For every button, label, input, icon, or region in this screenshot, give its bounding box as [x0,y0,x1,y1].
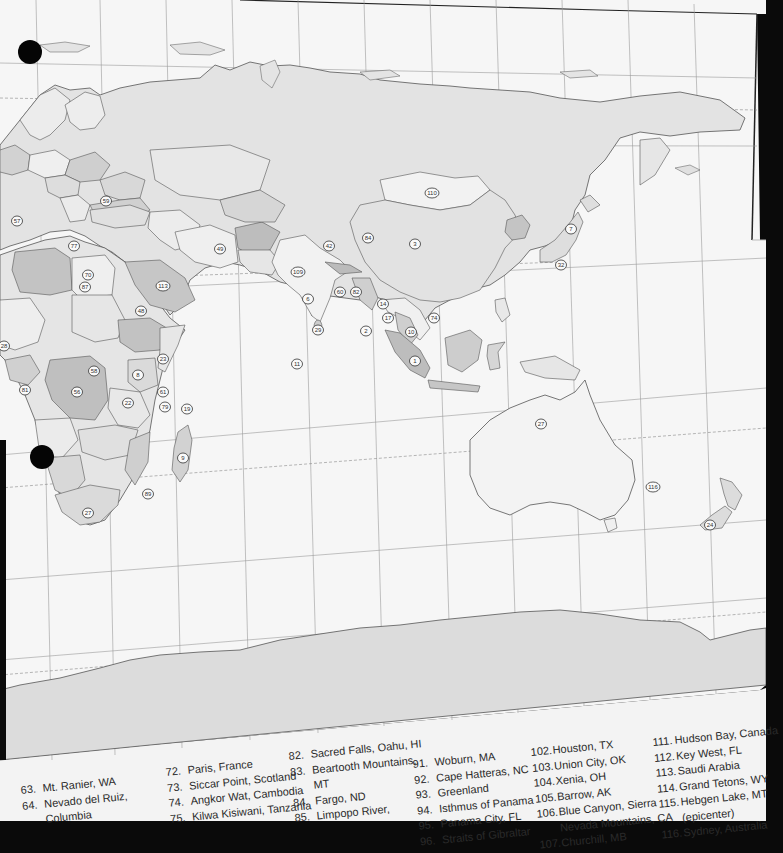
marker-number: 17 [385,315,392,321]
location-marker: 48 [136,306,147,316]
binder-hole-top [18,40,42,64]
location-marker: 8 [133,370,144,380]
location-marker: 17 [383,313,394,323]
marker-number: 22 [125,400,132,406]
location-marker: 59 [101,196,112,206]
marker-number: 24 [707,522,714,528]
location-marker: 87 [80,282,91,292]
marker-number: 81 [22,387,29,393]
location-marker: 109 [291,267,305,277]
legend: 63.Mt. Ranier, WA 64.Nevado del Ruiz,Col… [0,735,766,821]
legend-column-1: 63.Mt. Ranier, WA 64.Nevado del Ruiz,Col… [20,773,130,829]
location-marker: 82 [351,287,362,297]
location-marker: 60 [335,287,346,297]
marker-number: 42 [326,243,333,249]
marker-number: 19 [184,406,191,412]
location-marker: 2 [361,326,372,336]
marker-number: 56 [74,389,81,395]
marker-number: 27 [85,510,92,516]
location-marker: 74 [429,313,440,323]
location-marker: 24 [705,520,716,530]
location-marker: 42 [324,241,335,251]
location-marker: 19 [182,404,193,414]
location-marker: 79 [160,402,171,412]
location-marker: 27 [83,508,94,518]
location-marker: 6 [303,294,314,304]
location-marker: 32 [556,260,567,270]
location-marker: 28 [0,341,10,351]
marker-number: 49 [217,246,224,252]
location-marker: 1 [410,356,421,366]
location-marker: 49 [215,244,226,254]
marker-number: 29 [315,327,322,333]
marker-number: 14 [380,301,387,307]
marker-number: 27 [538,421,545,427]
table-background [0,440,6,760]
marker-number: 84 [365,235,372,241]
location-marker: 77 [69,241,80,251]
location-marker: 110 [425,188,439,198]
legend-column-3: 82.Sacred Falls, Oahu, HI 83.Beartooth M… [288,736,428,826]
location-marker: 89 [143,489,154,499]
location-marker: 57 [12,216,23,226]
marker-number: 74 [431,315,438,321]
marker-number: 23 [160,356,167,362]
location-marker: 10 [406,327,417,337]
location-marker: 9 [178,453,189,463]
marker-number: 109 [293,269,304,275]
location-marker: 23 [158,354,169,364]
marker-number: 28 [1,343,8,349]
legend-column-4: 91.Woburn, MA 92.Cape Hatteras, NC 93.Gr… [412,746,537,850]
location-marker: 22 [123,398,134,408]
marker-number: 77 [71,243,78,249]
legend-column-6: 111.Hudson Bay, Canada 112.Key West, FL … [652,723,783,843]
marker-number: 89 [145,491,152,497]
marker-number: 70 [85,272,92,278]
location-marker: 116 [646,482,660,492]
marker-number: 110 [427,190,437,196]
location-marker: 11 [292,359,303,369]
marker-number: 11 [294,361,301,367]
location-marker: 113 [156,281,170,291]
marker-number: 48 [138,308,145,314]
marker-number: 10 [408,329,415,335]
location-marker: 58 [89,366,100,376]
location-marker: 70 [83,270,94,280]
marker-number: 113 [158,283,168,289]
marker-number: 59 [103,198,110,204]
location-marker: 81 [20,385,31,395]
location-marker: 61 [158,387,169,397]
marker-number: 79 [162,404,169,410]
marker-number: 87 [82,284,89,290]
marker-number: 61 [160,389,167,395]
marker-number: 58 [91,368,98,374]
location-marker: 56 [72,387,83,397]
location-marker: 7 [566,224,577,234]
marker-number: 57 [14,218,21,224]
marker-number: 32 [558,262,565,268]
location-marker: 29 [313,325,324,335]
location-marker: 3 [410,239,421,249]
binder-hole-bottom [30,445,54,469]
location-marker: 84 [363,233,374,243]
location-marker: 14 [378,299,389,309]
marker-number: 60 [337,289,344,295]
marker-number: 116 [648,484,658,490]
marker-number: 82 [353,289,360,295]
location-marker: 27 [536,419,547,429]
